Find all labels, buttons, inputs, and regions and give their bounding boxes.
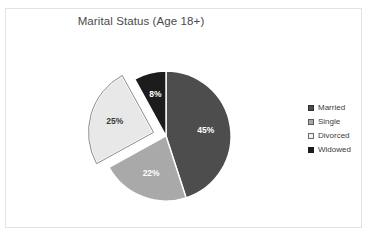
legend-label-divorced: Divorced [318,132,350,140]
pie-slice-label-divorced: 25% [106,116,123,126]
pie-chart-plot-area: 45%22%25%8% [6,9,276,227]
pie-slice-label-single: 22% [143,168,160,178]
legend-swatch-widowed [308,147,314,153]
legend-item-widowed[interactable]: Widowed [308,143,368,157]
legend-item-divorced[interactable]: Divorced [308,129,368,143]
legend-item-single[interactable]: Single [308,115,368,129]
legend-swatch-married [308,105,314,111]
legend-label-married: Married [318,104,345,112]
pie-slice-label-married: 45% [197,125,214,135]
legend-swatch-divorced [308,133,314,139]
legend-label-widowed: Widowed [318,146,351,154]
pie-chart-svg: 45%22%25%8% [6,9,276,227]
pie-slice-label-widowed: 8% [149,89,162,99]
chart-container: Marital Status (Age 18+) 45%22%25%8% Mar… [5,8,362,228]
legend-swatch-single [308,119,314,125]
legend-item-married[interactable]: Married [308,101,368,115]
legend-label-single: Single [318,118,340,126]
chart-legend: Married Single Divorced Widowed [308,101,368,157]
